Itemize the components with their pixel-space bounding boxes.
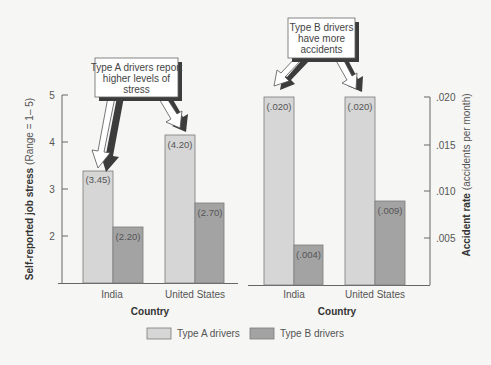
left-x-axis-title: Country xyxy=(131,306,170,317)
callout-text-line: Type A drivers report xyxy=(91,62,183,73)
right-tick-label: .015 xyxy=(436,140,456,151)
right-y-axis-title: Accident rate(accidents per month) xyxy=(461,93,472,256)
legend-swatch-type-a xyxy=(147,328,171,339)
left-y-axis-title: Self-reported job stress(Range = 1– 5) xyxy=(24,98,35,280)
callout-text-line: stress xyxy=(123,84,150,95)
right-tick-label: .010 xyxy=(436,186,456,197)
bar-value-label: (2.70) xyxy=(198,207,223,218)
bar-india-type-a-stress xyxy=(83,171,113,283)
bar-us-type-a-accidents xyxy=(345,97,375,285)
callout-text-line: higher levels of xyxy=(103,73,170,84)
left-tick-label: 5 xyxy=(49,90,55,101)
right-tick-label: .020 xyxy=(436,92,456,103)
bar-india-type-a-accidents xyxy=(264,97,294,285)
left-tick-label: 2 xyxy=(49,231,55,242)
category-label-united-states: United States xyxy=(345,289,405,300)
bar-value-label: (4.20) xyxy=(168,139,193,150)
left-chart: 5 4 3 2 Self-reported job stress(Range =… xyxy=(24,90,238,317)
right-chart: .020 .015 .010 .005 Accident rate(accide… xyxy=(248,92,472,317)
bar-us-type-a-stress xyxy=(165,135,195,283)
callout-right: Type B drivers have more accidents xyxy=(288,18,359,62)
callout-text-line: accidents xyxy=(300,44,342,55)
bar-value-label: (2.20) xyxy=(116,231,141,242)
legend-label-type-b: Type B drivers xyxy=(280,328,344,339)
bar-value-label: (.020) xyxy=(267,101,292,112)
left-tick-label: 3 xyxy=(49,184,55,195)
callout-text-line: Type B drivers xyxy=(290,22,354,33)
legend: Type A drivers Type B drivers xyxy=(147,328,344,339)
category-label-united-states: United States xyxy=(165,289,225,300)
bar-value-label: (3.45) xyxy=(86,174,111,185)
callout-right-arrows xyxy=(274,57,363,92)
legend-swatch-type-b xyxy=(250,328,274,339)
right-tick-label: .005 xyxy=(436,233,456,244)
bar-value-label: (.020) xyxy=(348,101,373,112)
callout-left: Type A drivers report higher levels of s… xyxy=(91,58,183,101)
chart-figure: 5 4 3 2 Self-reported job stress(Range =… xyxy=(0,0,491,365)
legend-label-type-a: Type A drivers xyxy=(177,328,240,339)
bar-value-label: (.009) xyxy=(378,205,403,216)
left-tick-label: 4 xyxy=(49,137,55,148)
category-label-india: India xyxy=(101,289,123,300)
right-x-axis-title: Country xyxy=(318,306,357,317)
bar-value-label: (.004) xyxy=(296,249,321,260)
category-label-india: India xyxy=(283,289,305,300)
callout-text-line: have more xyxy=(298,33,346,44)
